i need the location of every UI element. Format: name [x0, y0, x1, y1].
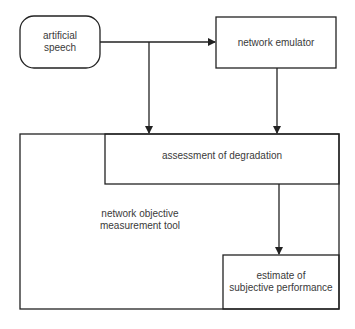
estimate-label-line1: estimate of — [223, 270, 339, 282]
network-emulator-label: network emulator — [216, 37, 336, 49]
assessment-label: assessment of degradation — [105, 150, 339, 162]
estimate-label-line2: subjective performance — [223, 282, 339, 294]
measurement-tool-label-line1: network objective — [80, 208, 200, 220]
estimate-label: estimate of subjective performance — [223, 270, 339, 294]
measurement-tool-label-line2: measurement tool — [80, 220, 200, 232]
measurement-tool-label: network objective measurement tool — [80, 208, 200, 232]
artificial-speech-label-line2: speech — [20, 42, 100, 54]
artificial-speech-label: artificial speech — [20, 30, 100, 54]
artificial-speech-label-line1: artificial — [20, 30, 100, 42]
